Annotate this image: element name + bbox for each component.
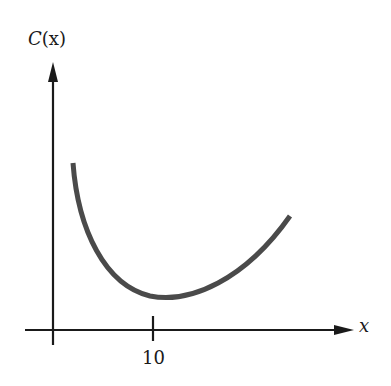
x-tick-label-10: 10 — [142, 347, 165, 368]
y-axis-arrow-icon — [48, 62, 58, 82]
y-label-func: C — [28, 28, 42, 49]
x-axis-arrow-icon — [334, 325, 354, 335]
chart-canvas — [0, 0, 391, 386]
x-axis-label: x — [359, 315, 369, 336]
cost-chart: C(x) x 10 — [0, 0, 391, 386]
y-label-arg: (x) — [42, 28, 66, 49]
cost-curve — [73, 163, 290, 297]
y-axis-label: C(x) — [28, 28, 66, 49]
